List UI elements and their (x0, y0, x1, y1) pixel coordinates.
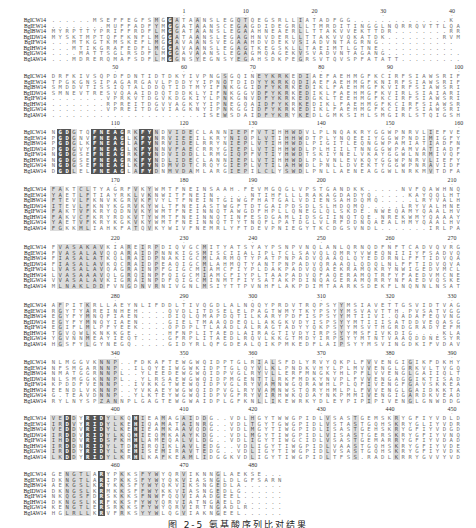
position-tick: 60· (181, 64, 187, 73)
position-tick: 300· (248, 293, 257, 302)
sequence-name: BgIAW14 (2, 510, 46, 516)
sequence-residues: MLNAKLDDFVNGDNVRNIVGNLMSIYTTPVNHFLAKPDIM… (50, 283, 462, 289)
sequence-alignment-figure: 1·10·20·30·40·BgICW14......MSEFFEGFSMGGA… (0, 0, 476, 528)
position-tick: 40· (449, 8, 455, 17)
alignment-row: BgIAW14DGDLELFNEAGLAFYDNMVDAMLARGIEPILCL… (0, 168, 476, 174)
sequence-residues: FGKKMLIAHKFATQVKYWIVFNEMRLYFTDEVPNIEGYTK… (50, 225, 462, 231)
sequence-name: BgIAW14 (2, 168, 46, 174)
sequence-name: BgIAW14 (2, 56, 46, 62)
position-tick: 170· (111, 177, 120, 186)
position-tick: 370· (317, 350, 326, 359)
sequence-residues: RYLNYSPZANNPLGAGTEWGWAIDPLGFKNLLIKEWRKYD… (50, 398, 462, 404)
position-tick: 110· (111, 120, 120, 129)
position-tick: 190· (248, 177, 257, 186)
position-tick: 320· (386, 293, 395, 302)
position-tick: 360· (248, 350, 257, 359)
position-tick: 160· (454, 120, 463, 129)
alignment-row: BgIAW14......................ISEWSDAIDFY… (0, 112, 476, 118)
alignment-row: BgIAW14...MDRERQMAFSDFLMGGNSYEGNSYEGAHSD… (0, 56, 476, 62)
sequence-name: BgIAW14 (2, 283, 46, 289)
position-tick: 30· (380, 8, 386, 17)
position-tick: 220· (111, 235, 120, 244)
sequence-name: BgIAW14 (2, 454, 46, 460)
alignment-row: BgIAW14FGKKMLIAHKFATQVKYWIVFNEMRLYFTDEVP… (0, 225, 476, 231)
position-tick: 90· (387, 64, 393, 73)
sequence-name: BgIAW14 (2, 341, 46, 347)
position-tick: 290· (179, 293, 188, 302)
position-tick: 400· (111, 406, 120, 415)
figure-caption: 图 2-5 氨基酸序列比对结果 (0, 518, 476, 528)
position-tick: 20· (311, 8, 317, 17)
sequence-name: BgIAW14 (2, 398, 46, 404)
sequence-residues: LKDDYRIDYLKRHLKAFKEAMLIDGGKVDLIGYTIWGPID… (50, 454, 462, 460)
position-tick: 250· (317, 235, 326, 244)
sequence-residues: HGSFYLGYNEGQ.....GIDYRLQFGDEALQIKPMKEDFL… (50, 341, 462, 347)
position-tick: 270· (447, 235, 456, 244)
alignment-row: BgIAW14HGSFYLGYNEGQ.....GIDYRLQFGDEALQIK… (0, 341, 476, 347)
position-tick: 210· (447, 177, 456, 186)
position-tick: 130· (248, 120, 257, 129)
sequence-residues: ...MDRERQMAFSDFLMGGNSYEGNSYEGAHSDKPEGRSV… (50, 56, 462, 62)
sequence-name: BgIAW14 (2, 225, 46, 231)
position-tick: 50· (112, 64, 118, 73)
sequence-residues: ......................ISEWSDAIDFYKRYKEDL… (50, 112, 462, 118)
alignment-row: BgIAW14MLNAKLDDFVNGDNVRNIVGNLMSIYTTPVNHF… (0, 283, 476, 289)
position-tick: 350· (179, 350, 188, 359)
alignment-row: BgIAW14LKDDYRIDYLKRHLKAFKEAMLIDGGKVDLIGY… (0, 454, 476, 460)
position-tick: 330· (447, 293, 456, 302)
position-tick: 200· (317, 177, 326, 186)
position-tick: 230· (179, 235, 188, 244)
position-tick: 450· (447, 406, 456, 415)
sequence-residues: HGLRLLKRVFRKSYYWLQGVIAKNGEEL...... (50, 510, 283, 516)
position-tick: 240· (248, 235, 257, 244)
position-tick: 280· (111, 293, 120, 302)
position-tick: 1· (182, 8, 185, 17)
position-tick: 140· (317, 120, 326, 129)
position-tick: 120· (179, 120, 188, 129)
position-tick: 380· (386, 350, 395, 359)
position-tick: 150· (386, 120, 395, 129)
position-tick: 470· (179, 462, 188, 471)
sequence-residues: DGDLELFNEAGLAFYDNMVDAMLARGIEPILCLYSWDLPN… (50, 168, 462, 174)
position-tick: 260· (386, 235, 395, 244)
position-tick: 440· (386, 406, 395, 415)
position-tick: 10· (243, 8, 249, 17)
position-tick: 340· (111, 350, 120, 359)
position-tick: 80· (318, 64, 324, 73)
position-tick: 180· (179, 177, 188, 186)
alignment-row: BgIAW14RYLNYSPZANNPLGAGTEWGWAIDPLGFKNLLI… (0, 398, 476, 404)
position-tick: 420· (248, 406, 257, 415)
position-tick: 100· (454, 64, 463, 73)
position-tick: 460· (111, 462, 120, 471)
position-tick: 70· (250, 64, 256, 73)
position-tick: 390· (447, 350, 456, 359)
sequence-name: BgIAW14 (2, 112, 46, 118)
position-tick: 310· (317, 293, 326, 302)
position-tick: 480· (248, 462, 257, 471)
position-tick: 430· (317, 406, 326, 415)
alignment-row: BgIAW14HGLRLLKRVFRKSYYWLQGVIAKNGEEL.....… (0, 510, 476, 516)
position-tick: 410· (179, 406, 188, 415)
